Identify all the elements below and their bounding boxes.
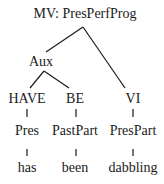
edge-root-vi [83, 27, 125, 88]
node-aux: Aux [29, 54, 53, 70]
node-pres: Pres [15, 123, 39, 139]
node-have: HAVE [8, 91, 45, 107]
node-prespart: PresPart [110, 123, 157, 139]
node-pastpart: PastPart [52, 123, 98, 139]
edge-aux-be [44, 71, 69, 88]
edge-aux-have [30, 71, 44, 88]
node-be: BE [66, 91, 84, 107]
node-root: MV: PresPerfProg [34, 6, 137, 22]
node-vi: VI [126, 91, 141, 107]
leaf-dabbling: dabbling [109, 160, 158, 176]
leaf-been: been [62, 160, 88, 176]
leaf-has: has [18, 160, 37, 176]
edge-root-aux [46, 27, 83, 52]
